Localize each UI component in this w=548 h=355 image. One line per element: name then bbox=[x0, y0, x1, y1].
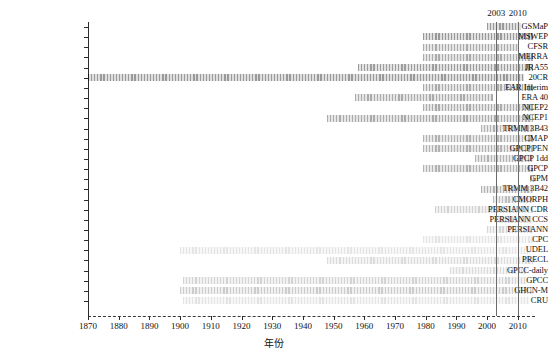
x-tick bbox=[303, 316, 304, 320]
bar-gpcp-pen bbox=[423, 145, 534, 152]
x-tick bbox=[242, 316, 243, 320]
bar-trmm-3b43 bbox=[481, 125, 533, 132]
x-tick bbox=[518, 316, 519, 320]
x-tick bbox=[149, 316, 150, 320]
y-tick bbox=[84, 240, 88, 241]
x-tick bbox=[395, 316, 396, 320]
x-tick bbox=[88, 316, 89, 320]
y-tick bbox=[84, 301, 88, 302]
bar-ncep2 bbox=[423, 104, 534, 111]
reference-line-2010 bbox=[518, 22, 519, 316]
bar-era-40 bbox=[355, 94, 493, 101]
y-tick bbox=[84, 159, 88, 160]
y-tick bbox=[84, 230, 88, 231]
bar-ear-interim bbox=[423, 84, 534, 91]
y-tick bbox=[84, 220, 88, 221]
bar-ncep1 bbox=[327, 115, 533, 122]
y-tick bbox=[84, 260, 88, 261]
y-tick bbox=[84, 189, 88, 190]
x-tick bbox=[426, 316, 427, 320]
x-tick bbox=[364, 316, 365, 320]
x-tick bbox=[119, 316, 120, 320]
x-tick bbox=[334, 316, 335, 320]
bar-cpc bbox=[423, 236, 534, 243]
bar-cmap bbox=[423, 135, 534, 142]
bar-cru bbox=[183, 297, 530, 304]
bar-mswep bbox=[423, 33, 534, 40]
y-tick bbox=[84, 250, 88, 251]
y-tick bbox=[84, 169, 88, 170]
y-tick bbox=[84, 149, 88, 150]
bar-precl bbox=[327, 257, 533, 264]
bar-persiann bbox=[487, 226, 533, 233]
y-tick bbox=[84, 88, 88, 89]
y-tick bbox=[84, 57, 88, 58]
y-tick bbox=[84, 291, 88, 292]
y-tick bbox=[84, 271, 88, 272]
x-tick bbox=[272, 316, 273, 320]
x-tick bbox=[487, 316, 488, 320]
x-axis-label-2010: 2010 bbox=[498, 321, 538, 331]
chart-figure: GSMaPMSWEPCFSRMERRAJRA5520CREAR InterimE… bbox=[0, 0, 548, 355]
bar-gpcc-daily bbox=[450, 267, 527, 274]
y-tick bbox=[84, 281, 88, 282]
x-axis-title: 年份 bbox=[0, 335, 548, 350]
bar-trmm-3b42 bbox=[481, 186, 533, 193]
x-tick bbox=[456, 316, 457, 320]
y-tick bbox=[84, 200, 88, 201]
y-tick bbox=[84, 27, 88, 28]
y-tick bbox=[84, 129, 88, 130]
bar-cmorph bbox=[493, 196, 533, 203]
x-axis-line bbox=[88, 316, 535, 317]
y-tick bbox=[84, 139, 88, 140]
bar-20cr bbox=[88, 74, 524, 81]
y-tick bbox=[84, 210, 88, 211]
reference-line-2003 bbox=[496, 22, 497, 316]
y-tick bbox=[84, 118, 88, 119]
y-tick bbox=[84, 68, 88, 69]
bar-gpcp-1dd bbox=[475, 155, 533, 162]
y-tick bbox=[84, 108, 88, 109]
y-tick bbox=[84, 37, 88, 38]
bar-jra55 bbox=[358, 64, 533, 71]
y-tick bbox=[84, 179, 88, 180]
bar-udel bbox=[180, 247, 530, 254]
x-tick bbox=[211, 316, 212, 320]
reference-line-label-2010: 2010 bbox=[498, 8, 538, 18]
bar-persiann-ccs bbox=[496, 216, 533, 223]
bar-gpcc bbox=[183, 277, 527, 284]
bar-gsmap bbox=[487, 23, 521, 30]
x-tick bbox=[180, 316, 181, 320]
bar-merra bbox=[423, 54, 534, 61]
y-tick bbox=[84, 98, 88, 99]
bar-gpcp bbox=[423, 165, 534, 172]
bar-cfsr bbox=[423, 44, 518, 51]
bar-ghcn-m bbox=[180, 287, 533, 294]
y-tick bbox=[84, 47, 88, 48]
bar-gpm bbox=[530, 175, 536, 182]
